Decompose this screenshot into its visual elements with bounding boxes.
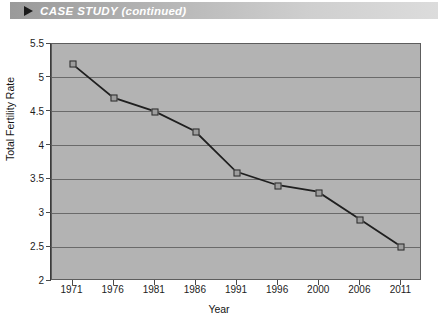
data-markers [52,44,420,279]
y-axis-tick [46,246,51,247]
y-axis-tick [46,110,51,111]
case-study-banner: CASE STUDY (continued) [10,2,438,19]
x-axis-label: 1976 [102,284,124,295]
data-point-marker [398,244,405,251]
x-axis-label: 1996 [266,284,288,295]
data-point-marker [69,61,76,68]
data-point-marker [234,169,241,176]
data-point-marker [316,189,323,196]
data-point-marker [275,183,282,190]
y-axis-label: 2 [38,275,44,286]
x-axis-title: Year [0,303,438,315]
fertility-rate-line-chart: Total Fertility Rate 22.533.544.555.5197… [0,19,438,326]
plot-area [51,43,421,280]
banner-title-main: CASE STUDY [40,5,118,17]
banner-title-suffix: (continued) [118,5,186,17]
y-axis-label: 4 [38,139,44,150]
data-point-marker [357,217,364,224]
y-axis-tick [46,212,51,213]
y-axis-tick [46,76,51,77]
y-axis-label: 5 [38,71,44,82]
y-axis-label: 2.5 [30,241,44,252]
y-axis-label: 4.5 [30,105,44,116]
play-triangle-icon [24,6,33,16]
x-axis-label: 2000 [307,284,329,295]
y-axis-tick [46,178,51,179]
data-point-marker [192,129,199,136]
y-axis-label: 5.5 [30,38,44,49]
x-axis-label: 2006 [348,284,370,295]
x-axis-label: 1986 [184,284,206,295]
data-point-marker [151,108,158,115]
x-axis-label: 2011 [390,284,412,295]
y-axis-tick [46,280,51,281]
banner-title: CASE STUDY (continued) [40,5,186,17]
y-axis-tick [46,144,51,145]
x-axis-label: 1971 [60,284,82,295]
x-axis-label: 1981 [143,284,165,295]
y-axis-label: 3.5 [30,173,44,184]
y-axis-title: Total Fertility Rate [4,77,16,161]
y-axis-label: 3 [38,207,44,218]
data-point-marker [110,95,117,102]
y-axis-tick [46,43,51,44]
x-axis-label: 1991 [225,284,247,295]
